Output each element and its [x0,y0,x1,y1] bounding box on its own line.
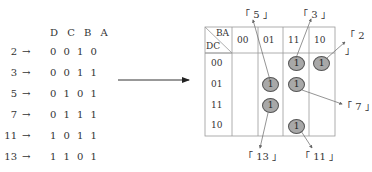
kmap-one-cell: 1 [313,56,330,71]
kmap-col-header: 10 [314,35,325,45]
kmap-one-cell: 1 [288,119,305,134]
kmap-one-cell: 1 [288,77,305,92]
kmap-corner-top: BA [216,28,229,38]
callout-label-2: 「 2 」 [345,27,372,57]
kmap-row-header: 11 [211,100,222,110]
kmap-col-header: 11 [288,35,299,45]
kmap-one-cell: 1 [262,77,279,92]
callout-label-11: 「 11 」 [300,148,339,163]
kmap-one-cell: 1 [288,56,305,71]
kmap-row-header: 10 [211,120,222,130]
callout-label-13: 「 13 」 [243,148,282,163]
kmap-one-cell: 1 [262,98,279,113]
kmap-row-header: 01 [211,79,222,89]
callout-label-5: 「 5 」 [240,6,273,21]
kmap-corner-bottom: DC [206,41,220,51]
kmap-diagram [0,0,372,172]
callout-label-7: 「 7 」 [342,98,372,113]
kmap-col-header: 01 [263,35,274,45]
kmap-row-header: 00 [211,58,222,68]
callout-label-3: 「 3 」 [298,6,331,21]
kmap-col-header: 00 [237,35,248,45]
